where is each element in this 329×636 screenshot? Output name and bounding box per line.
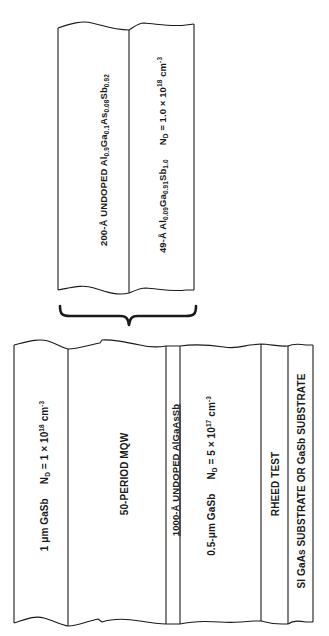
stack-layer-cap-label: 1 μm GaSbND = 1 × 1018 cm-3 bbox=[39, 401, 50, 552]
stack-bottom-edge bbox=[14, 617, 313, 626]
curly-brace bbox=[60, 306, 196, 325]
detail-layer-barrier-label: 200-Å UNDOPED Al0.9Ga0.1As0.08Sb0.92 bbox=[98, 74, 109, 246]
stack-layer-barrier-label: 1000-Å UNDOPED AlGaAsSb bbox=[170, 404, 181, 536]
stack-layer-rheed-label: RHEED TEST bbox=[270, 452, 281, 516]
stack-layer-mqw-label: 50-PERIOD MQW bbox=[119, 433, 130, 515]
stack-layer-contact-label: 0.5-μm GaSbND = 5 × 1017 cm-3 bbox=[206, 396, 217, 556]
detail-layer-well-label: 49-Å Al0.09Ga0.91Sb1.0ND = 1.0 × 1018 cm… bbox=[157, 57, 168, 253]
stack-layer-substrate-label: SI GaAs SUBSTRATE OR GaSb SUBSTRATE bbox=[296, 374, 307, 589]
stack-top-edge bbox=[14, 340, 313, 349]
detail-panel-top-edge bbox=[58, 22, 194, 30]
layer-structure-diagram: 200-Å UNDOPED Al0.9Ga0.1As0.08Sb0.92 49-… bbox=[0, 0, 329, 636]
detail-panel-bottom-edge bbox=[58, 286, 194, 294]
